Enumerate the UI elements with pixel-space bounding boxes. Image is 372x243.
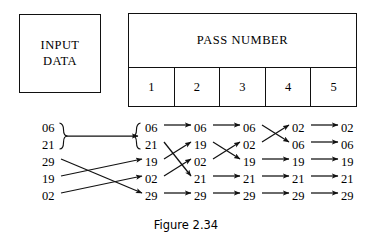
cell-pass2-1: 06 — [194, 122, 207, 134]
pass-cell-3: 3 — [220, 68, 266, 106]
cell-pass5-1: 02 — [341, 122, 354, 134]
cell-input-4: 19 — [42, 173, 55, 185]
pass-number-cells: 1 2 3 4 5 — [128, 68, 357, 107]
pass-cell-5: 5 — [311, 68, 356, 106]
cell-pass3-3: 19 — [243, 156, 256, 168]
cell-pass3-1: 06 — [243, 122, 256, 134]
pass-number-label: PASS NUMBER — [197, 33, 288, 48]
cell-input-5: 02 — [42, 190, 55, 202]
cell-pass5-4: 21 — [341, 173, 354, 185]
input-data-box: INPUT DATA — [19, 14, 101, 93]
cell-pass4-5: 29 — [292, 190, 305, 202]
cell-pass4-4: 21 — [292, 173, 305, 185]
cell-pass2-4: 21 — [194, 173, 207, 185]
cell-pass3-2: 02 — [243, 139, 256, 151]
cell-pass1-3: 19 — [145, 156, 158, 168]
pass-number-header-box: PASS NUMBER — [128, 13, 357, 68]
pass-cell-2: 2 — [175, 68, 221, 106]
cell-pass1-1: 06 — [145, 122, 158, 134]
figure-2-34: INPUT DATA PASS NUMBER 1 2 3 4 5 06 21 2… — [0, 0, 372, 243]
cell-input-3: 29 — [42, 156, 55, 168]
data-columns: 06 21 29 19 02 06 21 19 02 29 06 19 02 2… — [0, 118, 372, 208]
cell-pass4-3: 19 — [292, 156, 305, 168]
cell-pass5-2: 06 — [341, 139, 354, 151]
input-data-label-line2: DATA — [43, 54, 77, 69]
cell-pass5-3: 19 — [341, 156, 354, 168]
cell-pass2-2: 19 — [194, 139, 207, 151]
cell-pass1-4: 02 — [145, 173, 158, 185]
pass-cell-1: 1 — [129, 68, 175, 106]
cell-pass4-1: 02 — [292, 122, 305, 134]
cell-pass2-3: 02 — [194, 156, 207, 168]
cell-pass2-5: 29 — [194, 190, 207, 202]
cell-input-2: 21 — [42, 139, 55, 151]
input-data-label-line1: INPUT — [41, 38, 80, 53]
cell-pass1-2: 21 — [145, 139, 158, 151]
cell-pass4-2: 06 — [292, 139, 305, 151]
cell-pass5-5: 29 — [341, 190, 354, 202]
pass-cell-4: 4 — [266, 68, 312, 106]
figure-caption: Figure 2.34 — [0, 218, 372, 232]
cell-pass3-4: 21 — [243, 173, 256, 185]
cell-input-1: 06 — [42, 122, 55, 134]
cell-pass1-5: 29 — [145, 190, 158, 202]
cell-pass3-5: 29 — [243, 190, 256, 202]
